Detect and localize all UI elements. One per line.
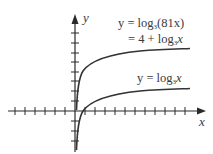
lower-label-var: x: [176, 71, 182, 85]
curve-log3x: [77, 89, 191, 151]
upper-label-prefix: y = log: [118, 16, 154, 30]
lower-label-prefix: y = log: [137, 71, 173, 85]
upper-label-arg: (81x): [157, 16, 184, 30]
lower-curve-label: y = log3x: [137, 72, 182, 86]
upper-label2-var: x: [177, 32, 183, 46]
x-axis-label: x: [199, 115, 205, 128]
upper-curve-label-line2: = 4 + log3x: [128, 33, 183, 47]
upper-curve-label-line1: y = log3(81x): [118, 17, 184, 31]
y-axis-arrow-icon: [72, 14, 79, 24]
y-axis-label: y: [83, 11, 89, 24]
upper-label2-prefix: = 4 + log: [128, 32, 174, 46]
